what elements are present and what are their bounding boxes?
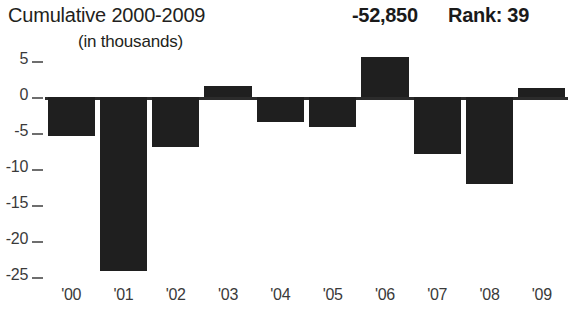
bar-02 [152, 97, 199, 147]
bar-04 [257, 97, 304, 122]
y-axis-tick-label: 0 [19, 86, 28, 104]
x-axis-tick-label: '07 [411, 286, 463, 304]
bar-08 [466, 97, 513, 184]
x-axis-tick-label: '01 [97, 286, 149, 304]
bar-07 [414, 97, 461, 154]
bar-01 [100, 97, 147, 271]
x-axis-tick-label: '04 [254, 286, 306, 304]
y-axis-tick-mark [32, 97, 43, 99]
chart-figure: Cumulative 2000-2009 -52,850 Rank: 39 (i… [0, 0, 568, 315]
y-axis-tick-label: 5 [19, 50, 28, 68]
y-axis-tick-label: -5 [14, 122, 28, 140]
x-axis: '00'01'02'03'04'05'06'07'08'09 [45, 286, 568, 312]
x-axis-tick-label: '09 [516, 286, 568, 304]
x-axis-tick-label: '05 [307, 286, 359, 304]
x-axis-tick-label: '03 [202, 286, 254, 304]
x-axis-tick-label: '06 [359, 286, 411, 304]
plot-area [45, 56, 568, 282]
y-axis-tick-label: -25 [6, 266, 28, 284]
y-axis-tick-label: -20 [6, 230, 28, 248]
y-axis-tick-mark [32, 61, 43, 63]
x-axis-tick-label: '00 [45, 286, 97, 304]
page-title: Cumulative 2000-2009 [8, 4, 205, 27]
y-axis-tick-mark [32, 133, 43, 135]
bar-05 [309, 97, 356, 127]
x-axis-tick-label: '02 [150, 286, 202, 304]
bar-03 [204, 86, 251, 97]
y-axis-tick-mark [32, 241, 43, 243]
rank-badge: Rank: 39 [448, 4, 529, 27]
y-axis-tick-label: -15 [6, 194, 28, 212]
y-axis-tick-label: -10 [6, 158, 28, 176]
bar-09 [518, 88, 565, 97]
chart-subtitle: (in thousands) [78, 32, 183, 52]
y-axis-tick-mark [32, 277, 43, 279]
chart-header: Cumulative 2000-2009 -52,850 Rank: 39 [0, 4, 568, 34]
bar-00 [48, 97, 95, 136]
cumulative-total-value: -52,850 [352, 4, 418, 27]
y-axis-tick-mark [32, 205, 43, 207]
y-axis-tick-mark [32, 169, 43, 171]
bar-06 [361, 57, 408, 97]
x-axis-tick-label: '08 [463, 286, 515, 304]
